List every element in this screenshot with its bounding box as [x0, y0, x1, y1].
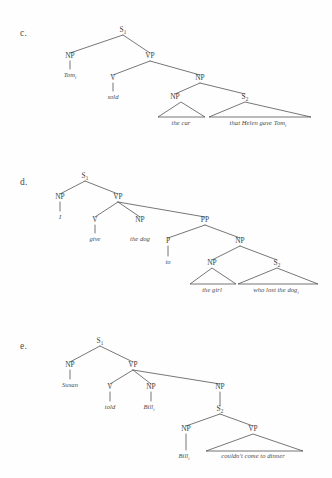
terminal-text: Bill: [178, 452, 188, 459]
branch-np-npinner: [212, 246, 240, 260]
node-text: S: [274, 258, 278, 267]
branch-np-s2: [200, 83, 245, 94]
node-text: V: [110, 73, 116, 82]
terminal-d-terminal-to: to: [165, 258, 171, 265]
node-text: PP: [201, 215, 209, 224]
node-text: NP: [55, 192, 65, 201]
terminal-text: Susan: [62, 381, 79, 388]
node-text: VP: [113, 192, 123, 201]
node-c-np-obj: NP: [195, 73, 205, 82]
node-e-vp: VP: [128, 360, 138, 369]
syntax-tree-c: c.S1NPVPVNPNPS2Tomisoldthe carthat Helen…: [0, 0, 332, 478]
node-d-np-pobj: NP: [235, 236, 245, 245]
node-e-s2: S2: [217, 404, 224, 414]
node-text: NP: [181, 424, 191, 433]
node-text: VP: [145, 51, 155, 60]
node-c-np-subj: NP: [65, 51, 75, 60]
node-e-np-obj: NP: [146, 382, 156, 391]
node-subscript: 1: [101, 340, 104, 346]
tree-canvas-c: S1NPVPVNPNPS2Tomisoldthe carthat Helen g…: [0, 0, 332, 478]
terminal-c-terminal-the-car: the car: [172, 119, 191, 126]
terminal-d-terminal-who-lost-the-dog: who lost the dogi: [253, 286, 299, 295]
node-e-np-embed: NP: [181, 424, 191, 433]
node-e-np-comp: NP: [215, 382, 225, 391]
terminal-subscript: i: [75, 75, 77, 80]
branch-vp-np: [133, 370, 151, 384]
node-subscript: 2: [278, 262, 281, 268]
triangle-tri-the-girl: [190, 268, 236, 284]
terminal-e-terminal-bill-embed: Billi: [178, 452, 190, 461]
triangle-tri-couldnt-come: [206, 434, 303, 451]
terminal-subscript: i: [285, 123, 287, 128]
terminal-e-terminal-susan: Susan: [62, 381, 79, 388]
node-e-s1: S1: [97, 336, 104, 346]
node-e-vp-embed: VP: [248, 424, 258, 433]
triangle-tri-who-lost: [238, 268, 318, 284]
node-text: NP: [195, 73, 205, 82]
node-d-pp: PP: [201, 215, 209, 224]
node-text: NP: [65, 51, 75, 60]
node-text: NP: [65, 360, 75, 369]
node-subscript: 1: [124, 29, 127, 35]
syntax-tree-e: e.S1NPVPVNPNPS2NPVPSusantoldBilliBillico…: [0, 0, 332, 478]
node-text: V: [92, 215, 98, 224]
terminal-d-terminal-the-girl: the girl: [202, 286, 222, 293]
node-text: S: [242, 92, 246, 101]
node-c-v: V: [110, 73, 116, 82]
node-d-p: P: [166, 236, 170, 245]
node-text: NP: [170, 92, 180, 101]
node-subscript: 2: [221, 408, 224, 414]
branch-np-npinner: [175, 83, 200, 94]
node-subscript: 2: [246, 96, 249, 102]
node-e-v: V: [107, 382, 113, 391]
terminal-e-terminal-told: told: [105, 403, 116, 410]
terminal-text: I: [58, 213, 62, 220]
terminal-d-terminal-give: give: [89, 235, 100, 242]
branch-vp-v: [113, 61, 150, 75]
branch-vp-npcomp: [133, 370, 220, 384]
node-text: V: [107, 382, 113, 391]
terminal-e-terminal-couldnt-come-to-dinner: couldn't come to dinner: [221, 452, 285, 459]
branch-vp-v: [95, 202, 118, 217]
branch-vp-np: [118, 202, 140, 217]
branch-pp-p: [168, 225, 205, 238]
terminal-text: sold: [107, 93, 119, 100]
node-d-np-obj: NP: [135, 215, 145, 224]
node-text: NP: [215, 382, 225, 391]
branch-s1-vp: [100, 346, 133, 362]
terminal-d-terminal-the-dog: the dog: [130, 235, 151, 242]
figure-label-d: d.: [20, 177, 28, 187]
terminal-subscript: i: [188, 456, 190, 461]
triangle-tri-the-car: [158, 102, 205, 117]
triangle-tri-that-helen: [209, 102, 311, 117]
node-text: S: [120, 25, 124, 34]
terminal-c-terminal-tom: Tomi: [64, 71, 77, 80]
node-text: P: [166, 236, 170, 245]
branch-s1-np: [60, 181, 85, 194]
node-text: S: [97, 336, 101, 345]
terminal-text: couldn't come to dinner: [221, 452, 285, 459]
branch-s2-vp: [220, 414, 253, 426]
node-text: NP: [207, 258, 217, 267]
terminal-text: that Helen gave Tom: [230, 119, 286, 126]
node-c-s2: S2: [242, 92, 249, 102]
node-d-v: V: [92, 215, 98, 224]
tree-canvas-e: S1NPVPVNPNPS2NPVPSusantoldBilliBillicoul…: [0, 0, 332, 478]
node-c-np-inner: NP: [170, 92, 180, 101]
terminal-text: to: [165, 258, 171, 265]
branch-s1-vp: [85, 181, 118, 194]
terminal-text: the dog: [130, 235, 151, 242]
terminal-text: the car: [172, 119, 191, 126]
terminal-text: told: [105, 403, 116, 410]
node-d-s1: S1: [82, 171, 89, 181]
branch-np-s2: [240, 246, 277, 260]
branch-vp-v: [110, 370, 133, 384]
node-d-vp: VP: [113, 192, 123, 201]
terminal-subscript: i: [297, 290, 299, 295]
terminal-e-terminal-bill-obj: Billi: [143, 403, 155, 412]
branch-s1-vp: [123, 35, 150, 53]
branch-pp-np: [205, 225, 240, 238]
node-text: S: [217, 404, 221, 413]
node-subscript: 1: [86, 175, 89, 181]
terminal-text: who lost the dog: [253, 286, 298, 293]
